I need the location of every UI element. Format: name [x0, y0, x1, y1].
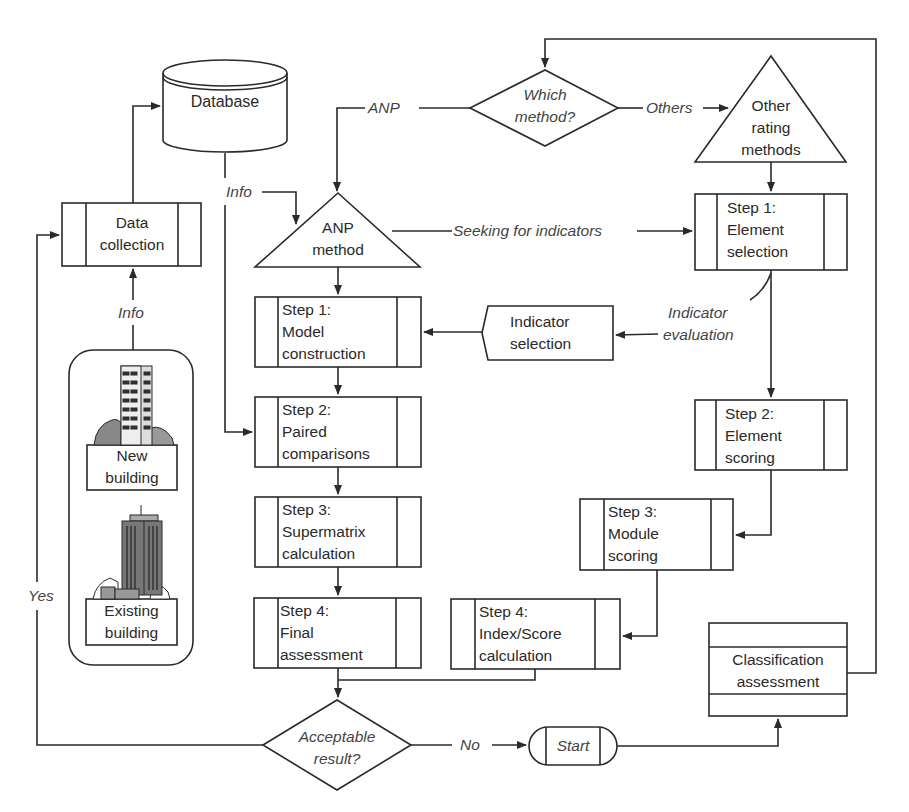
index-score-line1: Step 4:: [479, 601, 528, 623]
anp-method-line1: ANP: [288, 217, 388, 239]
element-scoring-line2: Element: [725, 425, 782, 447]
final-assessment-line1: Step 4:: [280, 600, 329, 622]
element-selection-line3: selection: [727, 241, 788, 263]
acceptable-line1: Acceptable: [282, 726, 392, 748]
new-building-line1: New: [87, 445, 177, 467]
supermatrix-line3: calculation: [282, 543, 355, 565]
which-method-line1: Which: [490, 84, 600, 106]
paired-line2: Paired: [282, 421, 327, 443]
element-selection-line2: Element: [727, 219, 784, 241]
supermatrix-line1: Step 3:: [282, 499, 331, 521]
edge-index-merge: [338, 669, 535, 680]
existing-building-line1: Existing: [86, 600, 177, 622]
edge-label-info-db: Info: [226, 181, 252, 203]
edge-label-others: Others: [646, 97, 693, 119]
classification-line1: Classification: [709, 649, 847, 671]
edge-label-anp: ANP: [368, 97, 400, 119]
edge-info-paired: [225, 205, 252, 432]
element-scoring-line1: Step 2:: [725, 403, 774, 425]
edge-yes-datacollection: [37, 235, 59, 582]
other-rating-line1: Other: [721, 95, 821, 117]
other-rating-line3: methods: [721, 139, 821, 161]
element-scoring-line3: scoring: [725, 447, 775, 469]
edge-start-classification: [617, 719, 778, 746]
which-method-line2: method?: [490, 106, 600, 128]
data-collection-line1: Data: [86, 212, 178, 234]
acceptable-line2: result?: [282, 748, 392, 770]
data-collection-line2: collection: [86, 234, 178, 256]
model-construction-line2: Model: [282, 321, 324, 343]
element-selection-line1: Step 1:: [727, 197, 776, 219]
database-label: Database: [163, 91, 287, 113]
paired-line1: Step 2:: [282, 399, 331, 421]
supermatrix-line2: Supermatrix: [282, 521, 366, 543]
final-assessment-line2: Final: [280, 622, 314, 644]
model-construction-line3: construction: [282, 343, 366, 365]
edge-module-index: [623, 570, 657, 636]
existing-building-line2: building: [86, 622, 177, 644]
start-label: Start: [546, 735, 600, 757]
anp-method-line2: method: [288, 239, 388, 261]
edge-label-seeking: Seeking for indicators: [453, 220, 602, 242]
edge-label-info-buildings: Info: [118, 302, 144, 324]
other-rating-line2: rating: [721, 117, 821, 139]
paired-line3: comparisons: [282, 443, 370, 465]
model-construction-line1: Step 1:: [282, 299, 331, 321]
edge-label-yes: Yes: [28, 585, 54, 607]
index-score-line2: Index/Score: [479, 623, 562, 645]
new-building-line2: building: [87, 467, 177, 489]
index-score-line3: calculation: [479, 645, 552, 667]
edge-label-indicator-eval-1: Indicator: [668, 302, 727, 324]
module-scoring-line3: scoring: [608, 545, 658, 567]
module-scoring-line1: Step 3:: [608, 501, 657, 523]
edge-label-no: No: [460, 734, 480, 756]
edge-label-indicator-eval-2: evaluation: [663, 324, 734, 346]
edge-eval-indicator: [616, 334, 658, 335]
indicator-selection-line1: Indicator: [510, 311, 569, 333]
edge-anp-down: [337, 108, 365, 191]
indicator-selection-line2: selection: [510, 333, 571, 355]
classification-line2: assessment: [709, 671, 847, 693]
edge-indicator-eval-curve: [750, 273, 771, 300]
edge-datacollection-database: [133, 106, 160, 203]
module-scoring-line2: Module: [608, 523, 659, 545]
edge-scoring-module: [736, 470, 771, 535]
final-assessment-line3: assessment: [280, 644, 363, 666]
